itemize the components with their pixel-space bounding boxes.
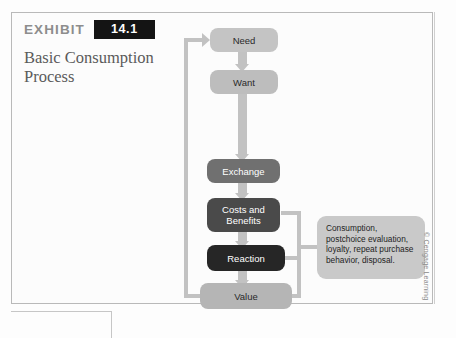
flow-box-costs-and-benefits[interactable]: Costs and Benefits — [207, 198, 280, 232]
flow-box-value[interactable]: Value — [200, 283, 292, 309]
flow-box-exchange[interactable]: Exchange — [207, 159, 280, 183]
exhibit-label: EXHIBIT — [24, 22, 85, 37]
feedback-loop-top-segment — [184, 38, 203, 42]
callout-box: Consumption, postchoice evaluation, loya… — [317, 216, 425, 279]
page-edge-line — [434, 12, 435, 304]
bracket-vertical — [297, 211, 301, 298]
page-title: Basic Consumption Process — [24, 48, 194, 86]
bracket-to-callout-stub — [300, 245, 318, 249]
flow-box-need[interactable]: Need — [210, 28, 278, 52]
exhibit-number-badge: 14.1 — [94, 20, 155, 39]
copyright-notice: © Cengage Learning — [423, 232, 430, 328]
connector-want-to-exchange — [238, 94, 247, 156]
page-bottom-tick — [111, 311, 112, 338]
exhibit-header: EXHIBIT 14.1 — [24, 20, 155, 39]
flow-box-reaction[interactable]: Reaction — [207, 245, 285, 271]
feedback-loop-vertical-segment — [184, 38, 188, 298]
flow-box-want[interactable]: Want — [210, 70, 278, 94]
page-bottom-rule — [11, 311, 112, 312]
feedback-loop-arrowhead-icon — [202, 33, 210, 47]
